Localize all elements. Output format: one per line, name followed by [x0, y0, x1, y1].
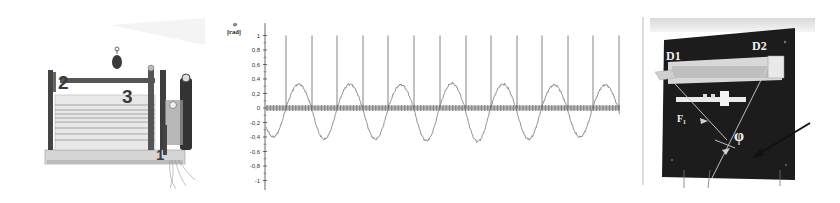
- label-3: 3: [122, 86, 133, 107]
- angle-chart: φ [rad] 10,80,60,40,20-0,2-0,4-0,6-0,8-1: [225, 0, 635, 203]
- y-tick-label: -0,8: [250, 163, 261, 169]
- y-ticks: 10,80,60,40,20-0,2-0,4-0,6-0,8-1: [250, 33, 267, 184]
- y-tick-label: 0: [257, 105, 261, 111]
- label-f1: F₁: [677, 113, 686, 124]
- y-tick-label: 1: [257, 33, 261, 39]
- y-tick-label: -1: [255, 178, 261, 184]
- y-tick-label: 0,6: [252, 62, 261, 68]
- label-1: 1: [156, 146, 164, 163]
- label-2: 2: [58, 72, 69, 93]
- label-d1: D1: [666, 49, 681, 63]
- label-d2: D2: [752, 39, 767, 53]
- chart-plot-area: φ [rad] 10,80,60,40,20-0,2-0,4-0,6-0,8-1: [225, 0, 635, 203]
- y-tick-label: 0,2: [252, 91, 261, 97]
- chart-series: [266, 36, 620, 143]
- y-tick-label: -0,6: [250, 149, 261, 155]
- y-tick-label: -0,4: [250, 134, 261, 140]
- y-tick-label: -0,2: [250, 120, 261, 126]
- y-axis-unit: [rad]: [227, 28, 241, 36]
- y-axis-symbol: φ: [233, 20, 237, 27]
- board-illustration: D1 D2 F₁ φ: [636, 0, 840, 203]
- waveform-line: [266, 82, 620, 142]
- apparatus-illustration: 2 3 1: [0, 0, 225, 203]
- apparatus-photo: 2 3 1: [0, 0, 225, 203]
- y-tick-label: 0,8: [252, 47, 261, 53]
- y-tick-label: 0,4: [252, 76, 261, 82]
- label-phi: φ: [734, 127, 744, 145]
- board-photo: D1 D2 F₁ φ: [636, 0, 840, 203]
